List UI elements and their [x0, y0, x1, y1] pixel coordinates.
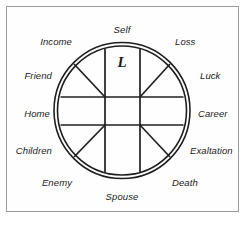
house-label-exaltation: Exaltation — [190, 145, 233, 156]
diagonal-bottom-right — [140, 125, 170, 157]
house-label-enemy: Enemy — [42, 177, 72, 188]
diagonal-bottom-left — [74, 125, 105, 157]
house-label-career: Career — [198, 108, 228, 119]
diagonal-top-right — [140, 64, 170, 97]
house-label-death: Death — [172, 177, 198, 188]
house-label-self: Self — [114, 24, 131, 35]
house-label-loss: Loss — [175, 36, 195, 47]
house-label-income: Income — [40, 36, 72, 47]
house-label-luck: Luck — [200, 70, 220, 81]
diagram-page: L Self Loss Luck Career Exaltation Death… — [0, 0, 247, 225]
house-label-spouse: Spouse — [106, 191, 139, 202]
lagna-letter: L — [117, 54, 126, 71]
diagonal-top-left — [74, 64, 105, 97]
house-label-home: Home — [24, 108, 50, 119]
house-label-friend: Friend — [24, 70, 52, 81]
house-label-children: Children — [16, 145, 52, 156]
